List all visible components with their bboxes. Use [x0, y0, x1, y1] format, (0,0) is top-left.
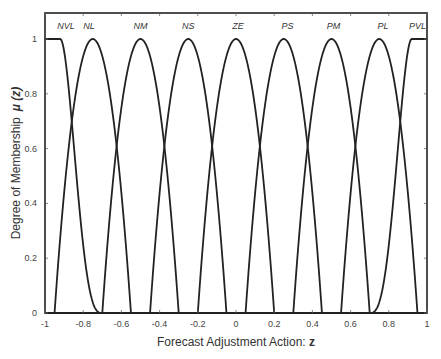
- x-tick-label: 0: [233, 319, 238, 329]
- curve-pl: [45, 39, 427, 313]
- curve-ze: [45, 39, 427, 313]
- x-tick-label: -0.2: [190, 319, 206, 329]
- curve-pm: [45, 39, 427, 313]
- x-axis-ticks: -1-0.8-0.6-0.4-0.200.20.40.60.81: [41, 13, 430, 329]
- x-tick-label: -0.8: [75, 319, 91, 329]
- x-tick-label: -0.6: [114, 319, 130, 329]
- set-label-pvl: PVL: [409, 21, 426, 31]
- x-tick-label: 0.8: [383, 319, 396, 329]
- x-tick-label: -0.4: [152, 319, 168, 329]
- set-label-nm: NM: [134, 21, 148, 31]
- curve-pvl: [45, 39, 427, 313]
- membership-curves: [45, 39, 427, 313]
- y-tick-label: 0.4: [24, 198, 37, 208]
- x-tick-label: 0.2: [268, 319, 281, 329]
- set-label-pm: PM: [327, 21, 341, 31]
- y-tick-label: 0: [32, 308, 37, 318]
- x-axis-title: Forecast Adjustment Action: z: [157, 335, 315, 349]
- y-tick-label: 0.6: [24, 144, 37, 154]
- curve-ps: [45, 39, 427, 313]
- set-label-pl: PL: [378, 21, 389, 31]
- set-label-ps: PS: [282, 21, 294, 31]
- set-label-nvl: NVL: [57, 21, 75, 31]
- set-label-nl: NL: [83, 21, 95, 31]
- x-tick-label: 0.6: [344, 319, 357, 329]
- y-axis-title: Degree of Membershipμ (z): [9, 87, 23, 240]
- x-tick-label: 0.4: [306, 319, 319, 329]
- y-tick-label: 0.8: [24, 89, 37, 99]
- membership-function-chart: -1-0.8-0.6-0.4-0.200.20.40.60.81 00.20.4…: [0, 0, 441, 359]
- curve-nl: [45, 39, 427, 313]
- curve-nm: [45, 39, 427, 313]
- x-tick-label: -1: [41, 319, 49, 329]
- y-tick-label: 1: [32, 34, 37, 44]
- set-label-ns: NS: [182, 21, 195, 31]
- x-tick-label: 1: [424, 319, 429, 329]
- curve-nvl: [45, 39, 427, 313]
- curve-ns: [45, 39, 427, 313]
- y-tick-label: 0.2: [24, 253, 37, 263]
- fuzzy-set-labels: NVLNLNMNSZEPSPMPLPVL: [57, 21, 426, 31]
- set-label-ze: ZE: [231, 21, 244, 31]
